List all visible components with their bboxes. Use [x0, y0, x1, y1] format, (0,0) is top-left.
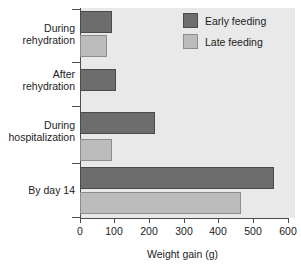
y-tick-3	[72, 163, 81, 164]
x-axis-title-text: Weight gain (g)	[147, 248, 218, 260]
y-tick-1	[72, 62, 81, 63]
bar-chart: During rehydration After rehydration Dur…	[0, 0, 301, 270]
bar-early-by-day-14	[80, 167, 274, 189]
y-tick-2	[72, 106, 81, 107]
bar-late-during-rehydration	[80, 35, 107, 57]
y-tick-0	[72, 9, 81, 10]
x-tick-label-400: 400	[209, 225, 227, 237]
x-tick-300	[184, 218, 185, 223]
legend-swatch-early-icon	[183, 13, 198, 28]
y-label-during-hospitalization: During hospitalization	[8, 119, 75, 143]
x-axis-title: Weight gain (g)	[0, 248, 301, 260]
bar-early-during-hospitalization	[80, 112, 155, 134]
x-tick-100	[114, 218, 115, 223]
legend-label-early-feeding: Early feeding	[205, 15, 266, 27]
x-tick-500	[253, 218, 254, 223]
legend-label-late-feeding: Late feeding	[205, 36, 263, 48]
y-label-after-rehydration: After rehydration	[22, 68, 75, 92]
x-tick-200	[149, 218, 150, 223]
legend: Early feeding Late feeding	[183, 11, 266, 53]
x-tick-label-600: 600	[279, 225, 297, 237]
legend-item-late-feeding: Late feeding	[183, 32, 266, 51]
x-tick-label-100: 100	[105, 225, 123, 237]
x-tick-label-200: 200	[140, 225, 158, 237]
bar-early-after-rehydration	[80, 69, 116, 91]
x-tick-label-500: 500	[244, 225, 262, 237]
legend-item-early-feeding: Early feeding	[183, 11, 266, 30]
bar-late-during-hospitalization	[80, 139, 112, 161]
y-label-by-day-14: By day 14	[28, 184, 75, 196]
bar-late-by-day-14	[80, 192, 241, 214]
legend-swatch-late-icon	[183, 34, 198, 49]
x-tick-600	[288, 218, 289, 223]
x-tick-0	[80, 218, 81, 223]
x-tick-label-0: 0	[77, 225, 83, 237]
y-label-during-rehydration: During rehydration	[22, 22, 75, 46]
bar-early-during-rehydration	[80, 11, 112, 33]
x-tick-label-300: 300	[175, 225, 193, 237]
x-tick-400	[218, 218, 219, 223]
